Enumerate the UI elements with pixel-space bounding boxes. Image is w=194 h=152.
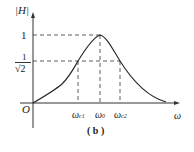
magnitude-curve <box>33 35 166 103</box>
figure-caption: ( b ) <box>87 126 104 136</box>
y-tick-sqrt-denominator: √2 <box>15 64 26 74</box>
x-axis-arrow-icon <box>174 101 180 105</box>
x-tick-wc2: ωc2 <box>114 110 127 120</box>
y-axis-arrow-icon <box>31 12 35 18</box>
dashed-guides <box>33 35 120 103</box>
x-tick-w0: ω0 <box>95 110 105 120</box>
y-tick-1: 1 <box>21 30 27 41</box>
y-axis-label: |H| <box>15 5 29 16</box>
y-tick-sqrt-numerator: 1 <box>22 53 27 62</box>
origin-label: O <box>22 104 30 115</box>
x-tick-wc1: ωc1 <box>72 110 85 120</box>
x-axis-label: ω <box>174 111 181 121</box>
